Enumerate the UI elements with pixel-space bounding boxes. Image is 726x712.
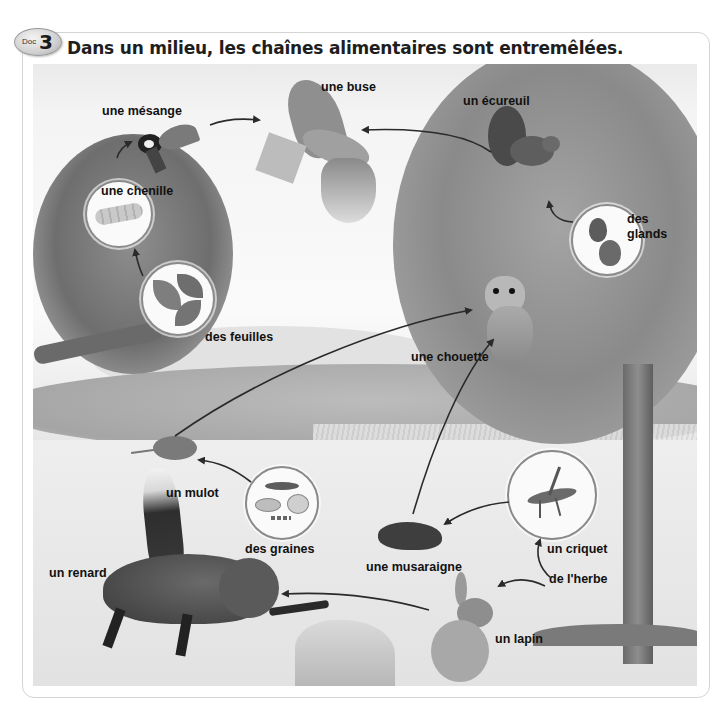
label-buse: une buse bbox=[321, 80, 376, 94]
seed-icon bbox=[271, 516, 291, 520]
field-mouse-illustration bbox=[131, 432, 201, 466]
acorn-icon bbox=[589, 218, 607, 242]
rock-illustration bbox=[295, 620, 395, 686]
label-criquet: un criquet bbox=[547, 542, 607, 556]
buzzard-illustration bbox=[261, 78, 381, 224]
shrew-illustration bbox=[378, 518, 448, 554]
label-glands-line1: des bbox=[627, 212, 649, 226]
label-musaraigne: une musaraigne bbox=[366, 560, 462, 574]
document-title: Dans un milieu, les chaînes alimentaires… bbox=[67, 38, 623, 58]
acorn-icon bbox=[599, 240, 621, 266]
oak-tree-trunk bbox=[623, 364, 653, 664]
label-mulot: un mulot bbox=[166, 486, 219, 500]
label-feuilles: des feuilles bbox=[205, 330, 273, 344]
seed-icon bbox=[255, 498, 281, 512]
label-ecureuil: un écureuil bbox=[463, 94, 530, 108]
squirrel-illustration bbox=[488, 106, 568, 186]
leaf-icon bbox=[177, 274, 203, 298]
cricket-bubble bbox=[507, 450, 597, 540]
arrow-mesange-to-buse bbox=[210, 119, 259, 125]
oak-tree-roots bbox=[533, 624, 697, 646]
seed-icon bbox=[287, 494, 309, 514]
owl-illustration bbox=[485, 276, 545, 366]
leaves-bubble bbox=[141, 262, 215, 336]
seeds-bubble bbox=[245, 466, 319, 540]
label-chouette: une chouette bbox=[411, 350, 489, 364]
rabbit-illustration bbox=[427, 572, 507, 684]
leaf-icon bbox=[153, 280, 181, 310]
doc-badge-prefix: Doc bbox=[22, 37, 36, 46]
label-herbe: de l'herbe bbox=[549, 572, 608, 586]
label-graines: des graines bbox=[245, 542, 314, 556]
food-web-illustration: une mésange une buse un écureuil une che… bbox=[33, 64, 697, 686]
label-lapin: un lapin bbox=[495, 632, 543, 646]
label-chenille: une chenille bbox=[101, 184, 173, 198]
doc-badge: Doc 3 bbox=[14, 28, 62, 56]
caterpillar-icon bbox=[94, 202, 144, 226]
doc-badge-number: 3 bbox=[39, 30, 53, 54]
tit-bird-illustration bbox=[118, 124, 198, 174]
label-renard: un renard bbox=[49, 566, 107, 580]
label-glands-line2: glands bbox=[627, 227, 667, 241]
seed-icon bbox=[265, 482, 299, 490]
label-mesange: une mésange bbox=[102, 104, 182, 118]
